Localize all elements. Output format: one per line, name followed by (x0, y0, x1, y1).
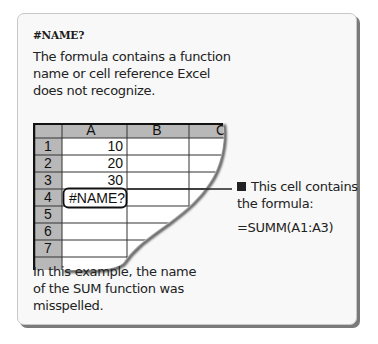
note-line: In this example, the name (33, 263, 233, 280)
illustration-page: #NAME? The formula contains a function n… (0, 0, 378, 344)
formula-text: =SUMM(A1:A3) (237, 220, 333, 235)
note-line: of the SUM function was (33, 280, 233, 297)
row-header: 4 (44, 189, 52, 205)
spreadsheet-excerpt: A B C 1 2 3 4 5 6 7 10 20 30 #NAME? (33, 123, 233, 273)
cell-a2: 20 (107, 155, 123, 171)
row-header: 1 (44, 138, 52, 154)
row-header: 5 (44, 206, 52, 222)
note-line: misspelled. (33, 297, 233, 314)
column-header-a: A (86, 122, 96, 138)
description-line: name or cell reference Excel (33, 65, 233, 82)
row-header: 7 (44, 240, 52, 256)
row-header: 3 (44, 172, 52, 188)
column-header-b: B (152, 122, 161, 138)
example-note: In this example, the name of the SUM fun… (33, 263, 233, 314)
description-line: The formula contains a function (33, 48, 233, 65)
cell-a3: 30 (107, 172, 123, 188)
square-bullet-icon (237, 182, 246, 191)
row-header: 2 (44, 155, 52, 171)
cell-a1: 10 (107, 138, 123, 154)
callout-line: This cell contains (251, 179, 358, 194)
error-description: The formula contains a function name or … (33, 48, 233, 99)
cell-a4: #NAME? (69, 190, 125, 206)
description-line: does not recognize. (33, 82, 233, 99)
spreadsheet-grid: A B C 1 2 3 4 5 6 7 10 20 30 #NAME? (33, 123, 243, 278)
row-header: 6 (44, 223, 52, 239)
callout-text: This cell contains the formula: (237, 178, 358, 212)
error-title: #NAME? (33, 29, 84, 41)
callout-line: the formula: (237, 195, 358, 212)
